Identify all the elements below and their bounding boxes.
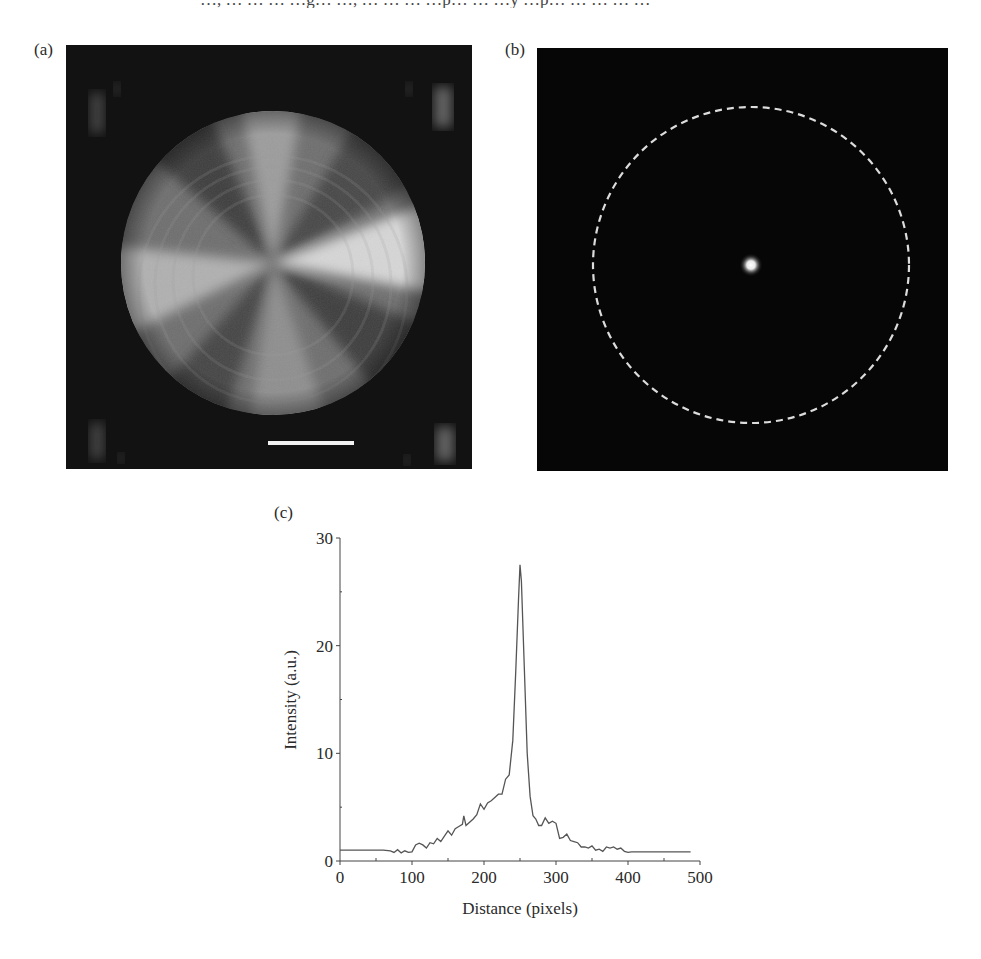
x-axis-label: Distance (pixels): [462, 899, 578, 918]
y-tick-label: 30: [316, 529, 333, 548]
y-axis-label: Intensity (a.u.): [281, 650, 300, 750]
y-tick-label: 20: [316, 637, 333, 656]
y-tick-label: 10: [316, 744, 333, 763]
x-tick-label: 500: [687, 868, 713, 887]
x-tick-label: 200: [471, 868, 497, 887]
intensity-curve: [340, 565, 691, 853]
x-tick-label: 100: [399, 868, 425, 887]
intensity-profile-chart: 01020300100200300400500 Distance (pixels…: [0, 0, 981, 959]
y-tick-label: 0: [325, 852, 334, 871]
x-tick-label: 0: [336, 868, 345, 887]
x-tick-label: 400: [615, 868, 641, 887]
x-tick-label: 300: [543, 868, 569, 887]
